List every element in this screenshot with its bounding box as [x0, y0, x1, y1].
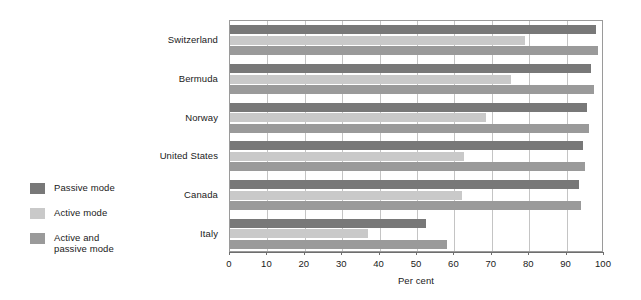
x-tick	[491, 252, 492, 255]
legend-label-active-and-passive-mode: Active and passive mode	[54, 232, 114, 254]
x-axis-title: Per cent	[229, 275, 603, 286]
x-tick	[304, 252, 305, 255]
x-tick	[603, 252, 604, 255]
bar	[230, 141, 583, 150]
plot-area	[229, 20, 603, 252]
category-label: Switzerland	[168, 34, 218, 45]
legend-label-passive-mode: Passive mode	[54, 182, 115, 193]
category-label: Bermuda	[179, 73, 218, 84]
x-tick-label: 60	[448, 258, 459, 269]
x-tick	[266, 252, 267, 255]
bar	[230, 36, 525, 45]
category-label: Norway	[185, 111, 218, 122]
legend-swatch-passive-mode	[30, 183, 45, 194]
legend-label-active-mode: Active mode	[54, 207, 107, 218]
x-tick-label: 0	[226, 258, 231, 269]
bar-series-container	[230, 21, 602, 251]
bar	[230, 113, 486, 122]
bar	[230, 75, 511, 84]
bar	[230, 124, 589, 133]
bar	[230, 191, 462, 200]
category-label: Canada	[184, 189, 218, 200]
bar	[230, 240, 447, 249]
x-tick	[341, 252, 342, 255]
bar-chart-figure: Passive mode Active mode Active and pass…	[0, 0, 641, 300]
x-tick	[566, 252, 567, 255]
x-tick-label: 30	[336, 258, 347, 269]
bar	[230, 46, 598, 55]
bar	[230, 180, 579, 189]
x-tick-label: 100	[595, 258, 611, 269]
x-tick	[453, 252, 454, 255]
category-label: Italy	[200, 227, 218, 238]
x-axis: 0102030405060708090100	[229, 252, 603, 253]
x-tick	[229, 252, 230, 255]
x-tick-label: 50	[411, 258, 422, 269]
bar	[230, 85, 594, 94]
x-tick-label: 90	[560, 258, 571, 269]
bar	[230, 162, 585, 171]
x-tick	[379, 252, 380, 255]
x-tick-label: 80	[523, 258, 534, 269]
category-label: United States	[160, 150, 218, 161]
x-tick	[416, 252, 417, 255]
x-tick-label: 10	[261, 258, 272, 269]
bar	[230, 229, 368, 238]
bar	[230, 152, 464, 161]
x-tick-label: 70	[486, 258, 497, 269]
category-axis-labels: SwitzerlandBermudaNorwayUnited StatesCan…	[120, 20, 224, 252]
x-tick-label: 40	[373, 258, 384, 269]
bar	[230, 201, 581, 210]
bar	[230, 64, 591, 73]
legend-swatch-active-and-passive-mode	[30, 233, 45, 244]
bar	[230, 25, 596, 34]
legend-swatch-active-mode	[30, 208, 45, 219]
x-tick	[528, 252, 529, 255]
bar	[230, 103, 587, 112]
x-tick-label: 20	[299, 258, 310, 269]
bar	[230, 219, 426, 228]
